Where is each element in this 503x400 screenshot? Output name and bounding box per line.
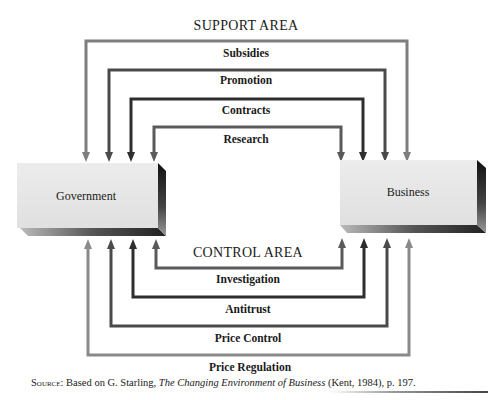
government-box: Government xyxy=(17,163,166,236)
flow-label-price-control: Price Control xyxy=(215,332,282,344)
source-text-after: (Kent, 1984), p. 197. xyxy=(325,377,415,388)
flow-label-subsidies: Subsidies xyxy=(223,47,270,59)
arrow-up-icon xyxy=(360,238,368,248)
arrow-up-icon xyxy=(84,239,92,249)
business-label: Business xyxy=(387,185,430,199)
source-prefix: Source: xyxy=(31,377,63,388)
control-area-title: CONTROL AREA xyxy=(193,245,304,260)
flow-label-promotion: Promotion xyxy=(220,74,273,86)
arrow-up-icon xyxy=(383,238,391,248)
arrow-down-icon xyxy=(127,152,135,162)
source-text-before: Based on G. Starling, xyxy=(63,377,158,388)
arrow-up-icon xyxy=(129,239,137,249)
flow-label-antitrust: Antitrust xyxy=(225,303,271,315)
flow-label-investigation: Investigation xyxy=(216,273,281,286)
arrow-up-icon xyxy=(338,238,346,248)
arrow-down-icon xyxy=(150,152,158,162)
flow-label-price-regulation: Price Regulation xyxy=(209,361,292,374)
arrow-up-icon xyxy=(152,239,160,249)
arrow-down-icon xyxy=(105,152,113,162)
source-citation: Source: Based on G. Starling, The Changi… xyxy=(31,377,416,388)
source-title: The Changing Environment of Business xyxy=(159,377,325,388)
arrow-up-icon xyxy=(405,238,413,248)
source-rule xyxy=(330,391,488,393)
arrow-up-icon xyxy=(107,239,115,249)
flow-label-research: Research xyxy=(223,133,269,145)
government-business-diagram: SUPPORT AREA CONTROL AREA Subsidies Prom… xyxy=(0,0,503,400)
arrow-down-icon xyxy=(82,152,90,162)
flow-label-contracts: Contracts xyxy=(222,104,271,116)
business-box: Business xyxy=(340,160,486,233)
government-label: Government xyxy=(56,189,117,203)
support-area-title: SUPPORT AREA xyxy=(194,18,299,33)
